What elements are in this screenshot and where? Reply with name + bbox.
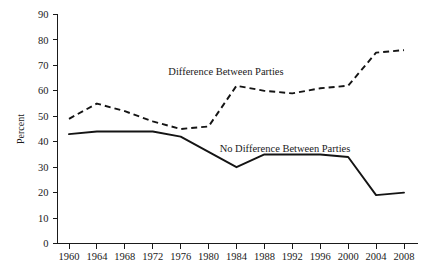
- difference-between-parties-label: Difference Between Parties: [168, 66, 283, 77]
- y-tick-label: 30: [38, 162, 49, 173]
- x-tick-label: 1988: [254, 251, 275, 262]
- x-tick-label: 1968: [114, 251, 135, 262]
- y-tick-label: 90: [38, 9, 49, 20]
- x-tick-label: 1964: [86, 251, 108, 262]
- y-axis-title: Percent: [15, 114, 26, 144]
- chart-container: 0102030405060708090 19601964196819721976…: [0, 0, 432, 275]
- chart-background: [0, 0, 432, 275]
- y-tick-label: 10: [38, 213, 49, 224]
- y-axis-title-label: Percent: [15, 114, 26, 144]
- y-tick-label: 80: [38, 35, 49, 46]
- no-difference-between-parties-label: No Difference Between Parties: [220, 143, 351, 154]
- line-chart: 0102030405060708090 19601964196819721976…: [0, 0, 432, 275]
- y-tick-label: 0: [43, 238, 48, 249]
- y-tick-label: 40: [38, 136, 49, 147]
- x-tick-label: 1984: [226, 251, 248, 262]
- x-tick-label: 1980: [198, 251, 219, 262]
- x-tick-label: 1992: [282, 251, 303, 262]
- y-tick-label: 70: [38, 60, 49, 71]
- x-tick-label: 2004: [366, 251, 388, 262]
- x-tick-label: 2008: [394, 251, 415, 262]
- x-tick-label: 1960: [59, 251, 80, 262]
- y-tick-label: 50: [38, 111, 49, 122]
- x-tick-label: 1972: [142, 251, 163, 262]
- x-tick-label: 1976: [170, 251, 191, 262]
- y-tick-label: 20: [38, 187, 49, 198]
- x-tick-label: 1996: [310, 251, 331, 262]
- x-tick-label: 2000: [338, 251, 359, 262]
- y-tick-label: 60: [38, 85, 49, 96]
